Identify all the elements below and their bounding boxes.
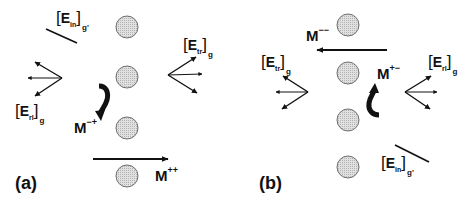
scatterer-circle [337,14,359,36]
transmitted-fan-b [276,76,308,109]
transmitted-fan-a [168,57,202,93]
incident-wave-line-a [46,29,77,43]
reflected-fan-b [405,76,437,109]
field-subscript: tr [197,48,202,55]
mode-superscript: ++ [168,165,179,175]
scatterer-column-b [337,14,359,178]
scatterer-circle [337,62,359,84]
mode-superscript: −+ [87,117,98,127]
field-g-subscript: g [286,67,291,76]
field-subscript: tr [275,65,280,72]
label-mode-straight-a: M++ [155,168,178,183]
label-incident-field-a: [Ein]g' [56,9,89,26]
mode-symbol: M [306,27,319,44]
field-g-subscript: g [208,50,213,59]
scatterer-circle [116,117,138,139]
label-reflected-field-a: [Erl]g [15,102,44,119]
scatterer-circle [116,165,138,187]
field-subscript: in [395,166,401,173]
mode-superscript: +− [390,63,401,73]
label-mode-flip-b: M+− [377,66,400,81]
field-symbol: E [188,37,197,53]
field-subscript: rl [442,65,447,72]
scatterer-circle [337,109,359,131]
label-incident-field-b: [Ein]g' [381,154,414,171]
scatterer-circle [337,156,359,178]
mode-symbol: M [377,65,390,82]
panel-label-b: (b) [259,174,282,192]
panel-label-a: (a) [15,174,37,192]
reflected-fan-a [28,62,62,96]
scatterer-circle [116,16,138,38]
scatterer-column-a [116,16,138,187]
label-reflected-field-b: [Erl]g [428,53,457,70]
diagram-canvas [0,0,472,206]
label-mode-flip-a: M−+ [74,120,97,135]
label-transmitted-field-b: [Etr]g [261,53,291,70]
label-mode-straight-b: M−− [306,28,329,43]
mode-symbol: M [155,167,168,184]
field-g-subscript: g' [82,23,89,32]
field-subscript: rl [29,114,34,121]
field-symbol: E [61,10,70,26]
field-symbol: E [20,103,29,119]
field-symbol: E [433,54,442,70]
mode-flip-curved-arrow-a [95,86,108,121]
label-transmitted-field-a: [Etr]g [183,36,213,53]
field-g-subscript: g [452,67,457,76]
field-symbol: E [386,155,395,171]
scatterer-circle [116,66,138,88]
field-symbol: E [266,54,275,70]
mode-superscript: −− [319,25,330,35]
mode-flip-curved-arrow-b [369,83,379,115]
field-g-subscript: g' [407,168,414,177]
mode-symbol: M [74,119,87,136]
panel-a [28,16,202,187]
field-g-subscript: g [39,116,44,125]
field-subscript: in [70,21,76,28]
